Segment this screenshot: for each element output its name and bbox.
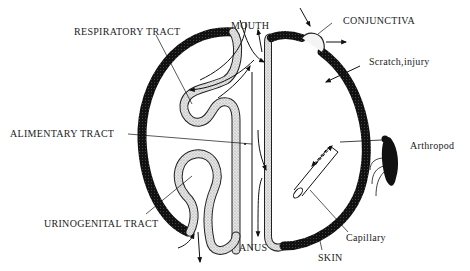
label-skin: SKIN (318, 252, 343, 263)
label-mouth: MOUTH (231, 20, 269, 31)
label-alimentary-tract: ALIMENTARY TRACT (10, 128, 114, 139)
label-anus: ANUS (239, 242, 267, 253)
label-urinogenital-tract: URINOGENITAL TRACT (44, 218, 158, 229)
label-scratch-injury: Scratch,injury (369, 56, 430, 67)
label-arthropod: Arthropod (410, 140, 454, 151)
conjunctiva (302, 33, 324, 52)
capillary-icon (292, 146, 338, 200)
label-conjunctiva: CONJUNCTIVA (343, 15, 415, 26)
skin-right (271, 35, 302, 38)
label-respiratory-tract: RESPIRATORY TRACT (74, 26, 180, 37)
label-capillary: Capillary (346, 232, 386, 243)
